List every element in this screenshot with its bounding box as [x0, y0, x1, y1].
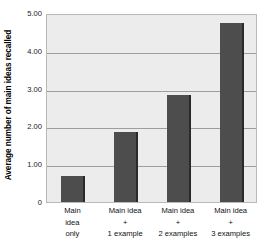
- x-axis-category-label: Main idea+2 examples: [152, 205, 205, 240]
- x-axis-category-line: 2 examples: [152, 228, 205, 240]
- x-axis-category-line: Main idea: [204, 205, 257, 217]
- y-axis-tick-labels: 01.002.003.004.005.00: [14, 0, 44, 252]
- bar: [220, 23, 244, 202]
- bar-chart-figure: Average number of main ideas recalled 01…: [0, 0, 273, 252]
- x-axis-category-line: only: [46, 228, 99, 240]
- y-axis-tick-label: 1.00: [27, 161, 42, 169]
- x-axis-category-line: +: [204, 217, 257, 229]
- x-axis-category-label: Main idea+1 example: [99, 205, 152, 240]
- x-axis-category-line: 3 examples: [204, 228, 257, 240]
- x-axis-category-labels: MainideaonlyMain idea+1 exampleMain idea…: [46, 205, 257, 252]
- y-axis-tick-label: 0: [38, 199, 42, 207]
- x-axis-category-line: Main idea: [152, 205, 205, 217]
- bar: [114, 132, 138, 202]
- x-axis-category-line: idea: [46, 217, 99, 229]
- y-axis-tick-label: 3.00: [27, 86, 42, 94]
- y-axis-tick-label: 5.00: [27, 10, 42, 18]
- y-axis-tick-label: 2.00: [27, 123, 42, 131]
- x-axis-category-line: +: [152, 217, 205, 229]
- x-axis-category-label: Main idea+3 examples: [204, 205, 257, 240]
- plot-area: [46, 14, 257, 203]
- y-axis-tick-label: 4.00: [27, 48, 42, 56]
- x-axis-category-line: Main idea: [99, 205, 152, 217]
- x-axis-category-line: +: [99, 217, 152, 229]
- x-axis-category-line: 1 example: [99, 228, 152, 240]
- x-axis-category-line: Main: [46, 205, 99, 217]
- x-axis-category-label: Mainideaonly: [46, 205, 99, 240]
- bar: [61, 176, 85, 202]
- bar: [167, 95, 191, 202]
- y-axis-title-text: Average number of main ideas recalled: [3, 30, 13, 180]
